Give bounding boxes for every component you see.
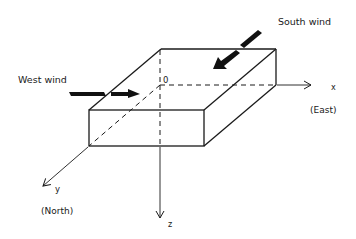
ocean-box-diagram: South wind West wind 0 x (East) y (North… xyxy=(0,0,356,239)
box xyxy=(89,49,276,146)
z-axis-label: z xyxy=(168,220,172,229)
hidden-edges xyxy=(89,50,276,146)
y-axis-label: y xyxy=(55,184,60,194)
y-direction-label: (North) xyxy=(41,206,73,216)
box-bottom-right-edge xyxy=(204,85,276,146)
west-wind-label: West wind xyxy=(18,74,67,85)
axes xyxy=(43,85,311,218)
x-axis-label: x xyxy=(331,83,336,92)
x-direction-label: (East) xyxy=(310,105,336,115)
y-axis-arrow xyxy=(43,147,88,186)
box-top-right-edge xyxy=(204,49,276,110)
origin-label: 0 xyxy=(163,75,168,85)
box-front-face xyxy=(89,110,204,146)
south-wind-label: South wind xyxy=(278,16,331,27)
box-top-left-edge xyxy=(89,49,161,110)
